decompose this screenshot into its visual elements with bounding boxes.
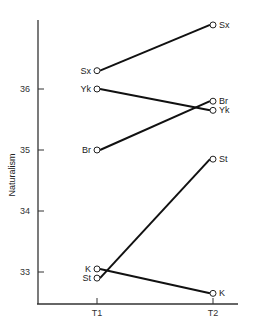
line-chart: 33343536 T1T2 Naturalism SxSxYkYkBrBrStS… — [0, 0, 255, 329]
series-line-sx — [100, 25, 210, 71]
series-line-k — [100, 269, 210, 293]
data-point-label: St — [82, 273, 91, 283]
series-line-yk — [100, 89, 210, 110]
data-point-label: Br — [219, 96, 228, 106]
data-point-marker — [210, 107, 216, 113]
data-point-marker — [94, 275, 100, 281]
data-points: SxSxYkYkBrBrStStKK — [80, 20, 230, 298]
data-point-marker — [210, 98, 216, 104]
y-tick-label: 35 — [20, 145, 30, 155]
x-ticks: T1T2 — [92, 298, 219, 318]
data-point-label: Sx — [80, 66, 91, 76]
data-point-label: Yk — [80, 84, 91, 94]
series-lines — [100, 25, 210, 293]
data-point-label: Sx — [219, 20, 230, 30]
data-point-marker — [94, 147, 100, 153]
data-point-label: Yk — [219, 105, 230, 115]
y-axis-label: Naturalism — [7, 153, 17, 196]
data-point-marker — [94, 86, 100, 92]
data-point-marker — [210, 22, 216, 28]
y-tick-label: 36 — [20, 84, 30, 94]
series-line-st — [100, 159, 210, 278]
data-point-label: St — [219, 154, 228, 164]
x-tick-label: T2 — [208, 308, 219, 318]
data-point-label: Br — [82, 145, 91, 155]
data-point-label: K — [85, 264, 91, 274]
y-tick-label: 34 — [20, 206, 30, 216]
data-point-marker — [210, 156, 216, 162]
data-point-marker — [94, 266, 100, 272]
data-point-label: K — [219, 288, 225, 298]
y-tick-label: 33 — [20, 267, 30, 277]
x-tick-label: T1 — [92, 308, 103, 318]
y-ticks: 33343536 — [20, 84, 44, 277]
series-line-br — [100, 101, 210, 150]
data-point-marker — [94, 68, 100, 74]
data-point-marker — [210, 290, 216, 296]
